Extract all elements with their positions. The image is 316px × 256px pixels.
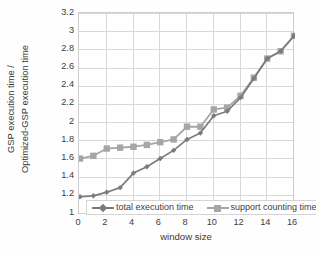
- x-axis-tick-label: 12: [227, 216, 251, 228]
- legend-label-support-counting-time: support counting time: [231, 202, 316, 213]
- x-axis-title: window size: [78, 231, 294, 242]
- x-axis-tick-label: 4: [120, 216, 144, 228]
- y-axis-title-line-1: GSP execution time /: [4, 6, 18, 212]
- y-axis-tick-label: 1.4: [50, 170, 74, 181]
- y-axis-title-line-2: Optimized-GSP execution time: [18, 6, 32, 212]
- y-axis-tick-label: 2.4: [50, 79, 74, 90]
- data-point-square: [144, 142, 150, 148]
- data-point-square: [157, 139, 163, 145]
- data-point-square: [79, 155, 83, 161]
- data-point-square: [170, 136, 176, 142]
- data-series-layer: [79, 13, 293, 213]
- chart-figure: GSP execution time / Optimized-GSP execu…: [0, 0, 316, 256]
- x-axis-tick-label: 8: [173, 216, 197, 228]
- diamond-marker-icon: [92, 203, 114, 212]
- data-point-square: [90, 153, 96, 159]
- x-axis-tick-label: 16: [280, 216, 304, 228]
- series-svg: [79, 13, 295, 215]
- y-axis-tick-label: 1.6: [50, 152, 74, 163]
- data-point-square: [184, 124, 190, 130]
- y-axis-tick-label: 2.8: [50, 43, 74, 54]
- plot-area: [78, 12, 294, 214]
- square-marker-icon: [207, 203, 229, 212]
- y-axis-tick-label: 1.8: [50, 134, 74, 145]
- series-line-diamond: [80, 36, 294, 197]
- y-axis-tick-label: 2.2: [50, 97, 74, 108]
- y-axis-tick-label: 2.6: [50, 61, 74, 72]
- data-point-square: [130, 144, 136, 150]
- y-axis-tick-label: 2: [50, 116, 74, 127]
- y-axis-tick-label: 3: [50, 25, 74, 36]
- x-axis-tick-label: 2: [93, 216, 117, 228]
- x-axis-tick-label: 6: [146, 216, 170, 228]
- chart-legend: total execution time support counting ti…: [86, 200, 316, 215]
- data-point-square: [117, 144, 123, 150]
- legend-item-total-execution-time: total execution time: [92, 202, 194, 213]
- data-point-square: [211, 106, 217, 112]
- data-point-square: [104, 145, 110, 151]
- x-axis-tick-label: 10: [200, 216, 224, 228]
- y-axis-tick-label: 3.2: [50, 7, 74, 18]
- data-point-diamond: [91, 193, 96, 198]
- legend-label-total-execution-time: total execution time: [116, 202, 194, 213]
- y-axis-title-container: GSP execution time / Optimized-GSP execu…: [0, 0, 44, 220]
- legend-item-support-counting-time: support counting time: [207, 202, 316, 213]
- y-axis-tick-label: 1.2: [50, 188, 74, 199]
- x-axis-tick-labels: 0246810121416: [78, 216, 294, 230]
- x-axis-tick-label: 0: [66, 216, 90, 228]
- data-point-diamond: [104, 189, 109, 194]
- data-point-diamond: [79, 194, 83, 199]
- y-axis-title: GSP execution time / Optimized-GSP execu…: [4, 6, 32, 212]
- x-axis-tick-label: 14: [253, 216, 277, 228]
